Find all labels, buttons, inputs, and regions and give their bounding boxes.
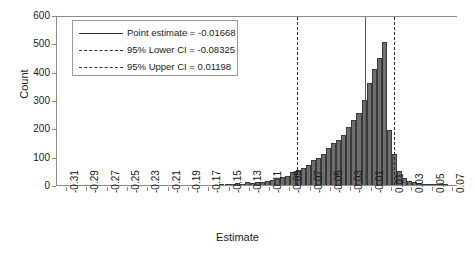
- x-tick-mark: [452, 187, 453, 191]
- x-tick-label: -0.29: [90, 170, 100, 193]
- x-tick-mark: [330, 187, 331, 191]
- x-tick-label: 0.01: [395, 174, 405, 193]
- legend-swatch-dashed-icon: [79, 67, 123, 68]
- reference-line-lower-ci: [297, 17, 298, 185]
- legend-item-upper-ci: 95% Upper CI = 0.01198: [79, 60, 233, 74]
- x-tick-mark: [432, 187, 433, 191]
- legend-label-point-estimate: Point estimate = -0.01668: [127, 28, 236, 38]
- x-tick-label: -0.19: [192, 170, 202, 193]
- x-tick-mark: [229, 187, 230, 191]
- x-tick-label: -0.03: [354, 170, 364, 193]
- x-tick-label: -0.25: [131, 170, 141, 193]
- legend-item-point-estimate: Point estimate = -0.01668: [79, 26, 233, 40]
- x-tick-mark: [147, 187, 148, 191]
- legend: Point estimate = -0.01668 95% Lower CI =…: [72, 20, 238, 76]
- x-tick-mark: [127, 187, 128, 191]
- y-tick-mark: [52, 186, 56, 187]
- x-tick-mark: [411, 187, 412, 191]
- x-tick-mark: [188, 187, 189, 191]
- x-tick-label: -0.15: [233, 170, 243, 193]
- x-tick-mark: [107, 187, 108, 191]
- x-tick-label: -0.05: [334, 170, 344, 193]
- legend-label-lower-ci: 95% Lower CI = -0.08325: [127, 45, 235, 55]
- x-tick-label: -0.17: [212, 170, 222, 193]
- x-tick-label: 0.03: [415, 174, 425, 193]
- x-tick-label: -0.13: [253, 170, 263, 193]
- histogram-figure: Count 0100200300400500600 -0.31-0.29-0.2…: [0, 0, 475, 253]
- x-tick-label: -0.23: [151, 170, 161, 193]
- legend-item-lower-ci: 95% Lower CI = -0.08325: [79, 43, 233, 57]
- legend-swatch-dashed-icon: [79, 50, 123, 51]
- y-tick-label: 200: [0, 124, 50, 134]
- x-tick-mark: [350, 187, 351, 191]
- x-tick-label: 0.07: [456, 174, 466, 193]
- x-tick-mark: [249, 187, 250, 191]
- x-tick-mark: [168, 187, 169, 191]
- reference-line-point-estimate: [365, 17, 366, 185]
- x-tick-mark: [269, 187, 270, 191]
- x-tick-label: -0.07: [314, 170, 324, 193]
- y-tick-label: 100: [0, 153, 50, 163]
- y-tick-label: 500: [0, 39, 50, 49]
- x-tick-label: -0.01: [375, 170, 385, 193]
- reference-line-upper-ci: [394, 17, 395, 185]
- y-tick-label: 400: [0, 68, 50, 78]
- y-tick-label: 0: [0, 181, 50, 191]
- y-tick-label: 600: [0, 11, 50, 21]
- x-tick-label: -0.27: [111, 170, 121, 193]
- x-tick-label: -0.11: [273, 171, 283, 193]
- x-tick-label: 0.05: [436, 174, 446, 193]
- x-tick-mark: [208, 187, 209, 191]
- x-tick-label: -0.21: [172, 170, 182, 193]
- x-tick-mark: [310, 187, 311, 191]
- x-axis-title: Estimate: [0, 231, 475, 243]
- x-tick-mark: [66, 187, 67, 191]
- x-tick-mark: [371, 187, 372, 191]
- x-tick-mark: [289, 187, 290, 191]
- y-tick-label: 300: [0, 96, 50, 106]
- legend-label-upper-ci: 95% Upper CI = 0.01198: [127, 62, 231, 72]
- x-tick-label: -0.31: [70, 170, 80, 193]
- x-tick-mark: [86, 187, 87, 191]
- x-tick-mark: [391, 187, 392, 191]
- legend-swatch-solid-icon: [79, 33, 123, 34]
- x-tick-label: -0.09: [293, 170, 303, 193]
